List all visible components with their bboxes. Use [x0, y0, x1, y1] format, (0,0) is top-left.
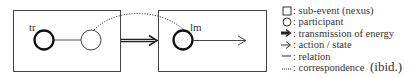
- line-icon: [281, 51, 292, 62]
- circle-icon: [281, 17, 292, 28]
- sub-event-box-left: [14, 11, 121, 72]
- dotted-line-icon: [281, 62, 292, 73]
- legend-item: : action / state: [281, 39, 394, 50]
- landmark-circle: [174, 31, 193, 50]
- legend-item: : transmission of energy: [281, 28, 394, 39]
- trajector-circle: [35, 31, 54, 50]
- legend-label: : transmission of energy: [293, 28, 394, 39]
- trajector-label: tr: [29, 21, 36, 33]
- legend-label: : sub-event (nexus): [293, 5, 373, 16]
- participant-circle: [81, 30, 101, 50]
- event-diagram: tr lm: [0, 0, 280, 78]
- landmark-label: lm: [190, 21, 202, 33]
- correspondence-curve: [94, 14, 184, 31]
- legend-item: : participant: [281, 16, 394, 27]
- legend-label: : participant: [293, 16, 343, 27]
- legend-item: : sub-event (nexus): [281, 5, 394, 16]
- source-citation: (ibid.): [370, 59, 402, 75]
- legend-label: : correspondence: [293, 62, 364, 73]
- square-icon: [281, 5, 292, 16]
- double-arrow-icon: [281, 28, 292, 39]
- legend-label: : relation: [293, 51, 331, 62]
- arrow-icon: [281, 39, 292, 50]
- legend-label: : action / state: [293, 39, 352, 50]
